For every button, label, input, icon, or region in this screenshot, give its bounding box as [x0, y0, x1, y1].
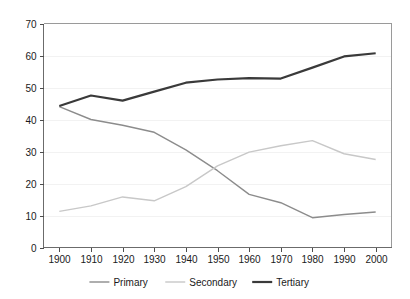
x-tick-label-1910: 1910	[80, 254, 103, 265]
y-axis-ticks: 010203040506070	[25, 19, 43, 254]
x-tick-label-2000: 2000	[365, 254, 388, 265]
y-tick-label-50: 50	[25, 83, 37, 94]
series-line-tertiary	[59, 53, 375, 106]
legend-label-primary[interactable]: Primary	[113, 277, 147, 288]
x-tick-label-1980: 1980	[301, 254, 324, 265]
x-tick-label-1920: 1920	[112, 254, 135, 265]
x-tick-label-1970: 1970	[270, 254, 293, 265]
legend-label-secondary[interactable]: Secondary	[189, 277, 237, 288]
chart-canvas: 010203040506070 190019101920193019401950…	[0, 0, 410, 299]
legend-label-tertiary[interactable]: Tertiary	[276, 277, 309, 288]
y-tick-label-30: 30	[25, 147, 37, 158]
y-tick-label-20: 20	[25, 179, 37, 190]
series-line-secondary	[59, 141, 375, 212]
series-lines	[59, 53, 375, 217]
line-chart: 010203040506070 190019101920193019401950…	[0, 0, 410, 299]
x-tick-label-1930: 1930	[143, 254, 166, 265]
x-tick-label-1900: 1900	[48, 254, 71, 265]
chart-legend[interactable]: PrimarySecondaryTertiary	[89, 277, 309, 288]
x-axis-ticks: 1900191019201930194019501960197019801990…	[48, 248, 388, 265]
y-tick-label-60: 60	[25, 51, 37, 62]
y-tick-label-0: 0	[31, 243, 37, 254]
y-tick-label-10: 10	[25, 211, 37, 222]
x-tick-label-1990: 1990	[333, 254, 356, 265]
x-tick-label-1950: 1950	[207, 254, 230, 265]
y-tick-label-40: 40	[25, 115, 37, 126]
x-tick-label-1960: 1960	[238, 254, 261, 265]
y-tick-label-70: 70	[25, 19, 37, 30]
x-tick-label-1940: 1940	[175, 254, 198, 265]
